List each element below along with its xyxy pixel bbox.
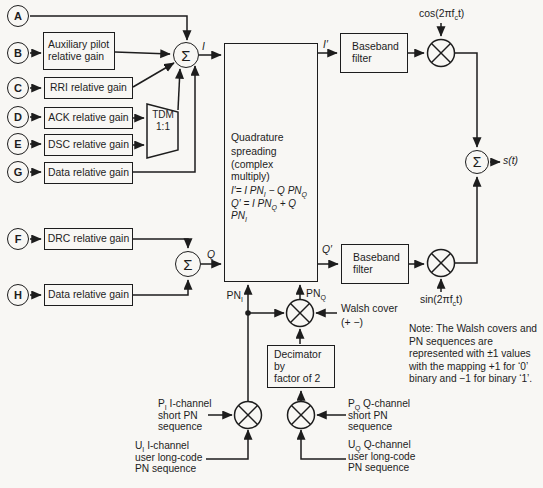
sigma-icon: Σ (473, 154, 482, 170)
tdm-line2: 1:1 (149, 121, 177, 133)
note-text: Note: The Walsh covers and PN sequences … (409, 323, 537, 386)
signal-label-i-prime: I′ (323, 39, 328, 51)
signal-label-q-prime: Q′ (322, 244, 332, 256)
drc-gain-block: DRC relative gain (44, 228, 133, 250)
qs-line1: Quadrature (231, 132, 284, 144)
source-label-c: C (14, 82, 22, 94)
decimator-block: Decimator by factor of 2 (267, 345, 335, 388)
qs-equation-2: Q′ = I PNQ + Q PNI (231, 198, 312, 222)
source-label-a: A (14, 10, 22, 22)
source-node-a: A (7, 5, 29, 27)
source-label-b: B (14, 47, 22, 59)
tdm-block-label: TDM 1:1 (149, 109, 177, 133)
aux-pilot-gain-line2: relative gain (48, 51, 104, 63)
aux-pilot-gain-line1: Auxiliary pilot (48, 39, 109, 51)
sigma-icon: Σ (181, 47, 190, 64)
note-line1: Note: The Walsh covers and (409, 323, 537, 336)
source-label-e: E (14, 138, 21, 150)
baseband-line1: Baseband (352, 41, 399, 53)
data-gain-block-q: Data relative gain (44, 284, 133, 306)
source-label-f: F (15, 233, 22, 245)
baseband-filter-i: Baseband filter (340, 33, 408, 73)
summer-output: Σ (465, 150, 489, 174)
q-pn-multiplier-icon (288, 402, 315, 429)
ack-gain-block: ACK relative gain (44, 107, 133, 129)
mixer-cos-icon (428, 40, 455, 67)
summer-i: Σ (173, 42, 199, 68)
source-node-h: H (7, 284, 29, 306)
source-node-g: G (7, 161, 29, 183)
source-node-e: E (7, 133, 29, 155)
pq-short-pn-label: PQ Q-channel short PN sequence (348, 398, 410, 433)
decimator-line2: factor of 2 (274, 373, 320, 385)
note-line5: binary and −1 for binary ‘1’. (409, 373, 537, 386)
qs-line2: spreading (231, 146, 277, 158)
dsc-gain-block: DSC relative gain (44, 134, 133, 156)
source-node-f: F (7, 228, 29, 250)
pnq-walsh-multiplier-icon (287, 300, 314, 327)
rri-gain-block: RRI relative gain (44, 77, 133, 99)
note-line3: represented with ±1 values (409, 348, 537, 361)
note-line4: with the mapping +1 for ‘0’ (409, 361, 537, 374)
uq-long-code-label: UQ Q-channel user long-code PN sequence (348, 439, 415, 474)
signal-label-q: Q (207, 249, 215, 261)
qs-equation-1: I′= I PNI − Q PNQ (231, 185, 307, 197)
baseband-line2: filter (353, 264, 373, 276)
walsh-line1: Walsh cover (341, 302, 398, 316)
tdm-line1: TDM (149, 109, 177, 121)
junction-dot (245, 310, 251, 316)
walsh-cover-label: Walsh cover (+ −) (341, 302, 398, 329)
decimator-line1: Decimator by (274, 349, 334, 373)
source-node-b: B (7, 42, 29, 64)
block-diagram: A B C D E G F H Auxiliary pilot relative… (0, 0, 543, 488)
source-node-c: C (7, 77, 29, 99)
aux-pilot-gain-block: Auxiliary pilot relative gain (43, 32, 115, 70)
source-label-d: D (14, 111, 22, 123)
sigma-icon: Σ (183, 256, 192, 273)
note-line2: PN sequences are (409, 336, 537, 349)
summer-q: Σ (175, 251, 201, 277)
sin-carrier-label: sin(2πfct) (420, 294, 462, 306)
source-node-d: D (7, 106, 29, 128)
ui-long-code-label: UI I-channel user long-code PN sequence (135, 440, 202, 475)
pn-q-label: PNQ (306, 288, 326, 300)
pn-i-label: PNI (213, 290, 243, 302)
source-label-h: H (14, 289, 22, 301)
quadrature-spreading-block: Quadrature spreading (complex multiply) … (224, 43, 318, 282)
signal-label-i: I (202, 41, 205, 53)
mixer-sin-icon (428, 250, 455, 277)
baseband-line1: Baseband (353, 252, 400, 264)
qs-line3: (complex multiply) (231, 159, 312, 183)
walsh-line2: (+ −) (341, 316, 398, 330)
i-pn-multiplier-icon (235, 402, 262, 429)
source-label-g: G (14, 166, 23, 178)
data-gain-block-i: Data relative gain (44, 162, 133, 184)
cos-carrier-label: cos(2πfct) (419, 8, 464, 20)
baseband-filter-q: Baseband filter (341, 244, 409, 284)
signal-label-s-out: s(t) (503, 155, 518, 167)
pi-short-pn-label: PI I-channel short PN sequence (158, 398, 212, 433)
baseband-line2: filter (352, 53, 372, 65)
